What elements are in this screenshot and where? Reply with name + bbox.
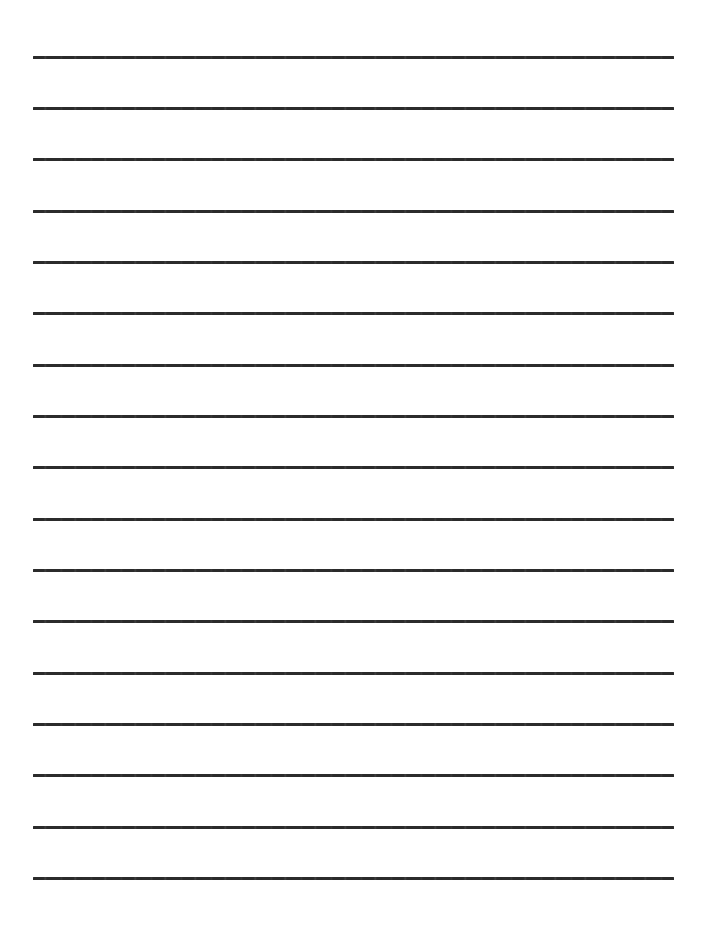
rule-line [33,56,674,59]
rule-line [33,877,674,880]
rule-line [33,569,674,572]
rule-line [33,107,674,110]
rule-line [33,158,674,161]
rule-line [33,672,674,675]
rule-line [33,364,674,367]
rule-line [33,466,674,469]
rule-line [33,518,674,521]
lined-paper-page [0,0,710,929]
rule-line [33,261,674,264]
rule-line [33,312,674,315]
rule-line [33,210,674,213]
rule-line [33,620,674,623]
rule-line [33,723,674,726]
rule-line [33,415,674,418]
ruled-writing-area[interactable] [0,0,710,929]
rule-line [33,826,674,829]
rule-line [33,774,674,777]
